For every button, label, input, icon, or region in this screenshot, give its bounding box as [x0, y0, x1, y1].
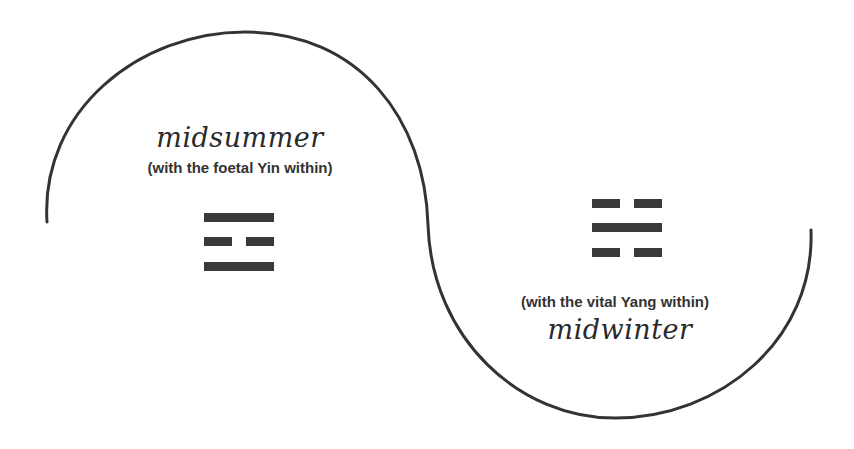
trigram-line-broken: [592, 248, 662, 257]
trigram-line-broken: [204, 237, 274, 246]
trigram-line-solid: [204, 213, 274, 222]
yin-yang-diagram: midsummer (with the foetal Yin within) (…: [0, 0, 854, 449]
trigram-li: [204, 213, 274, 273]
trigram-line-solid: [592, 223, 662, 232]
trigram-kan: [592, 199, 662, 259]
trigram-line-solid: [204, 262, 274, 271]
season-label-midsummer: midsummer: [130, 122, 350, 153]
note-foetal-yin: (with the foetal Yin within): [90, 159, 390, 176]
trigram-line-broken: [592, 199, 662, 208]
season-label-midwinter: midwinter: [510, 314, 730, 345]
note-vital-yang: (with the vital Yang within): [460, 293, 770, 310]
s-curve-path: [0, 0, 854, 449]
